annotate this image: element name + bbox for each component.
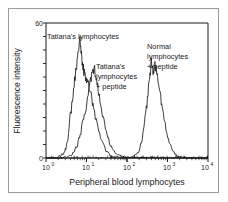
- x-tick-3-base: 10: [163, 164, 171, 171]
- y-axis-title: Fluorescence intensity: [12, 48, 22, 134]
- x-tick-label-3: 10 3: [163, 161, 176, 171]
- x-tick-2-exp: 2: [133, 161, 136, 167]
- x-tick-4-base: 10: [201, 164, 209, 171]
- axis-group: [46, 23, 208, 158]
- anno-tatiana-peptide-line3: + peptide: [96, 82, 127, 91]
- x-axis-title: Peripheral blood lymphocytes: [69, 177, 185, 187]
- x-tick-label-2: 10 2: [123, 161, 136, 171]
- anno-normal-peptide: Normal lymphocytes + peptide: [147, 42, 188, 71]
- figure-container: 60 0 Fluorescence intensity 10 0 10 1 10…: [0, 0, 228, 202]
- anno-tatiana-peptide-line2: lymphocytes: [96, 72, 137, 81]
- x-tick-label-1: 10 1: [82, 161, 95, 171]
- x-tick-4-exp: 4: [211, 161, 214, 167]
- anno-tatiana-lymphocytes-line1: Tatiana's lymphocytes: [47, 32, 119, 41]
- y-tick-label-bottom: 0: [39, 155, 43, 162]
- x-tick-label-0: 10 0: [42, 161, 55, 171]
- anno-tatiana-lymphocytes: Tatiana's lymphocytes: [47, 32, 119, 41]
- x-tick-0-base: 10: [42, 164, 50, 171]
- flow-cytometry-histogram: 60 0 Fluorescence intensity 10 0 10 1 10…: [0, 0, 228, 202]
- x-tick-3-exp: 3: [173, 161, 176, 167]
- y-tick-label-top: 60: [35, 20, 43, 27]
- x-tick-2-base: 10: [123, 164, 131, 171]
- anno-normal-peptide-line2: lymphocytes: [147, 52, 188, 61]
- x-tick-1-exp: 1: [92, 161, 95, 167]
- anno-normal-peptide-line3: + peptide: [147, 62, 178, 71]
- x-axis-ticks: [46, 158, 208, 162]
- x-tick-1-base: 10: [82, 164, 90, 171]
- x-tick-0-exp: 0: [52, 161, 55, 167]
- anno-tatiana-peptide-line1: Tatiana's: [96, 62, 125, 71]
- anno-tatiana-peptide: Tatiana's lymphocytes + peptide: [96, 62, 137, 91]
- anno-normal-peptide-line1: Normal: [147, 42, 171, 51]
- x-tick-label-4: 10 4: [201, 161, 214, 171]
